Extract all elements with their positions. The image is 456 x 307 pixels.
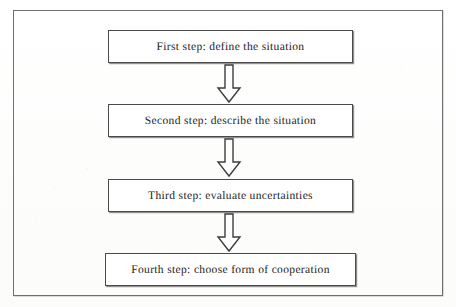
- down-arrow-icon-3: [216, 213, 242, 253]
- figure-canvas: First step: define the situation Second …: [0, 0, 456, 307]
- flow-step-label-2: Second step: describe the situation: [145, 115, 316, 127]
- flow-step-box-3: Third step: evaluate uncertainties: [108, 179, 353, 212]
- down-arrow-icon-1: [216, 64, 242, 104]
- flow-step-label-3: Third step: evaluate uncertainties: [148, 190, 313, 202]
- flow-step-box-4: Fourth step: choose form of cooperation: [105, 253, 356, 286]
- flow-step-label-1: First step: define the situation: [157, 41, 305, 53]
- down-arrow-icon-2: [216, 138, 242, 178]
- flow-step-box-2: Second step: describe the situation: [108, 104, 353, 137]
- flow-step-box-1: First step: define the situation: [108, 30, 353, 63]
- flow-step-label-4: Fourth step: choose form of cooperation: [131, 264, 330, 276]
